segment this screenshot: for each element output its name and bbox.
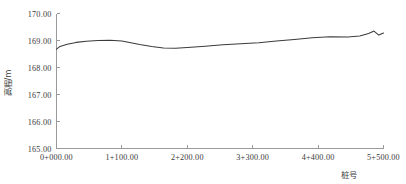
x-tick-label: 5+500.00 [367,153,400,162]
x-axis-tick-labels: 0+000.001+100.002+200.003+300.004+400.00… [40,153,400,162]
x-tick-label: 1+100.00 [105,153,138,162]
elevation-profile-chart: 165.00166.00167.00168.00169.00170.00 0+0… [0,0,406,184]
y-tick-label: 169.00 [28,37,52,46]
y-axis-tick-labels: 165.00166.00167.00168.00169.00170.00 [28,10,52,154]
y-axis-title: 高程/m [3,70,13,97]
x-axis-ticks [57,145,384,149]
x-tick-label: 0+000.00 [40,153,73,162]
x-tick-label: 4+400.00 [302,153,335,162]
elevation-line-series [57,31,384,49]
y-tick-label: 167.00 [28,91,52,100]
chart-canvas: 165.00166.00167.00168.00169.00170.00 0+0… [0,0,406,184]
axes-group [57,14,384,149]
y-tick-label: 168.00 [28,64,52,73]
x-tick-label: 2+200.00 [171,153,204,162]
x-tick-label: 3+300.00 [236,153,269,162]
axis-frame [57,14,384,149]
y-tick-label: 170.00 [28,10,52,19]
x-axis-title: 桩号 [341,170,357,180]
y-axis-ticks [57,14,61,149]
y-tick-label: 166.00 [28,118,52,127]
plot-series-group [57,31,384,49]
